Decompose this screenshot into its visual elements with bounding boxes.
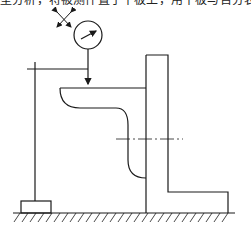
surface-plate-ground-hatch — [13, 213, 235, 222]
indicator-stand — [27, 62, 88, 201]
dial-gauge — [74, 21, 102, 84]
workpiece-L-bracket — [60, 55, 228, 213]
direction-cross-arrows-icon — [57, 12, 71, 27]
stand-base-block — [21, 201, 51, 213]
measurement-diagram — [0, 0, 251, 240]
